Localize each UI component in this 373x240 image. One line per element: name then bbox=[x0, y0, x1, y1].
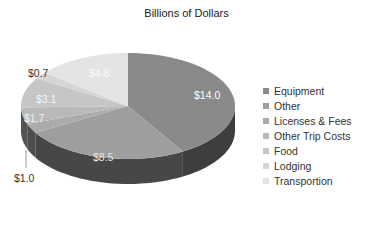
legend-swatch-icon bbox=[263, 178, 269, 184]
data-label: $3.1 bbox=[36, 93, 56, 105]
legend-label: Other Trip Costs bbox=[274, 130, 350, 142]
legend-swatch-icon bbox=[263, 88, 269, 94]
legend-swatch-icon bbox=[263, 163, 269, 169]
legend-swatch-icon bbox=[263, 118, 269, 124]
legend-label: Food bbox=[274, 145, 298, 157]
data-label: $8.5 bbox=[93, 151, 113, 163]
data-label: $1.0 bbox=[14, 172, 34, 184]
legend-item: Other bbox=[263, 98, 352, 113]
legend-item: Other Trip Costs bbox=[263, 128, 352, 143]
data-label: $1.7 bbox=[24, 112, 44, 124]
legend-item: Lodging bbox=[263, 158, 352, 173]
legend-swatch-icon bbox=[263, 148, 269, 154]
data-label: $0.7 bbox=[28, 67, 48, 79]
legend-label: Transportion bbox=[274, 175, 333, 187]
legend-swatch-icon bbox=[263, 133, 269, 139]
legend-swatch-icon bbox=[263, 103, 269, 109]
legend-item: Equipment bbox=[263, 83, 352, 98]
legend-item: Transportion bbox=[263, 173, 352, 188]
legend-label: Equipment bbox=[274, 85, 324, 97]
legend-label: Licenses & Fees bbox=[274, 115, 352, 127]
legend-label: Lodging bbox=[274, 160, 311, 172]
legend-label: Other bbox=[274, 100, 300, 112]
legend-item: Licenses & Fees bbox=[263, 113, 352, 128]
data-label: $14.0 bbox=[194, 89, 220, 101]
chart-legend: EquipmentOtherLicenses & FeesOther Trip … bbox=[263, 83, 352, 188]
data-label: $4.8 bbox=[89, 67, 109, 79]
legend-item: Food bbox=[263, 143, 352, 158]
